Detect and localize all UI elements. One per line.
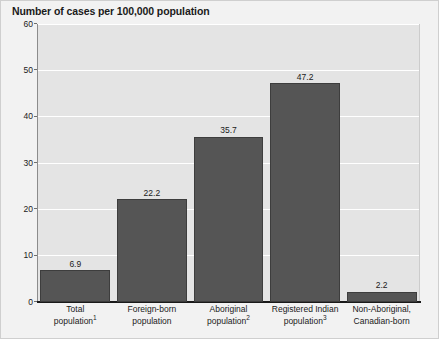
footnote-superscript: 2	[246, 314, 250, 321]
y-tick-label: 20	[3, 205, 33, 214]
y-axis-tick-labels: 0102030405060	[1, 24, 33, 302]
x-category-label-line1: Registered Indian	[267, 304, 344, 316]
x-category-label-line1: Aboriginal	[190, 304, 267, 316]
bar[interactable]	[270, 83, 340, 302]
y-tick-label: 30	[3, 159, 33, 168]
x-category-label: Foreign-bornpopulation	[114, 304, 191, 327]
chart-title: Number of cases per 100,000 population	[12, 5, 210, 17]
bar[interactable]	[347, 292, 417, 302]
y-tick-label: 50	[3, 66, 33, 75]
bar[interactable]	[40, 270, 110, 302]
chart-figure: Number of cases per 100,000 population 0…	[0, 0, 439, 339]
footnote-superscript: 3	[323, 314, 327, 321]
x-axis-category-labels: Totalpopulation1Foreign-bornpopulationAb…	[37, 304, 420, 336]
bar[interactable]	[194, 137, 264, 302]
y-tick-label: 60	[3, 20, 33, 29]
bars-layer: 6.922.235.747.22.2	[37, 24, 420, 302]
bar-group: 35.7	[190, 24, 267, 302]
bar-group: 47.2	[267, 24, 344, 302]
x-category-label: Totalpopulation1	[37, 304, 114, 327]
footnote-superscript: 1	[93, 314, 97, 321]
x-category-label: Aboriginalpopulation2	[190, 304, 267, 327]
bar-group: 22.2	[114, 24, 191, 302]
y-tick-label: 10	[3, 251, 33, 260]
bar-group: 2.2	[343, 24, 420, 302]
x-category-label: Registered Indianpopulation3	[267, 304, 344, 327]
y-tick-label: 40	[3, 112, 33, 121]
bar-value-label: 6.9	[37, 260, 114, 269]
y-tick-label: 0	[3, 298, 33, 307]
bar-value-label: 47.2	[267, 73, 344, 82]
x-category-label-line1: Total	[37, 304, 114, 316]
x-category-label-line1: Non-Aboriginal,	[343, 304, 420, 316]
bar-value-label: 2.2	[343, 281, 420, 290]
bar-value-label: 35.7	[190, 126, 267, 135]
x-category-label-line2: Canadian-born	[343, 316, 420, 328]
x-category-label-line2: population1	[37, 316, 114, 328]
x-category-label-line2: population	[114, 316, 191, 328]
x-category-label-line1: Foreign-born	[114, 304, 191, 316]
x-category-label-line2: population2	[190, 316, 267, 328]
x-category-label: Non-Aboriginal,Canadian-born	[343, 304, 420, 327]
bar[interactable]	[117, 199, 187, 302]
bar-group: 6.9	[37, 24, 114, 302]
bar-value-label: 22.2	[114, 189, 191, 198]
x-category-label-line2: population3	[267, 316, 344, 328]
